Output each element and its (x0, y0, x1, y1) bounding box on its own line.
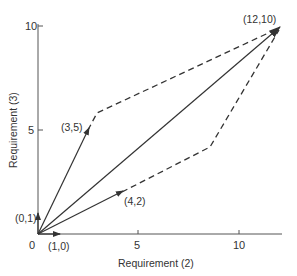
x-tick-label-10: 10 (233, 239, 245, 251)
label-4-2: (4,2) (124, 195, 146, 207)
y-tick-label-10: 10 (25, 20, 37, 32)
upper-dashed-path (88, 28, 279, 130)
label-1-0: (1,0) (48, 240, 70, 252)
x-axis-label: Requirement (2) (118, 257, 194, 269)
vector-diagram: 10 5 0 5 10 Requirement (2) Requirement … (0, 0, 297, 276)
y-axis (38, 24, 43, 234)
x-tick-label-0: 0 (29, 239, 35, 251)
y-tick-label-5: 5 (28, 124, 34, 136)
label-0-1: (0,1) (15, 212, 37, 224)
x-tick-label-5: 5 (134, 239, 140, 251)
x-axis (38, 230, 282, 234)
label-12-10: (12,10) (243, 13, 276, 25)
y-axis-label: Requirement (3) (7, 92, 19, 168)
label-3-5: (3,5) (61, 121, 83, 133)
lower-dashed-path (122, 30, 279, 192)
vector-3-5-arrow (38, 128, 89, 234)
